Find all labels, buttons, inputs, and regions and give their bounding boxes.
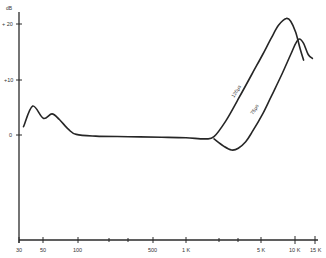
- curve-75us: [214, 39, 312, 150]
- x-tick-label: 10 K: [289, 247, 301, 253]
- frequency-response-chart: dB + 20 +10 0 30 50 100 500 1 K 5 K 10 K…: [0, 0, 326, 258]
- curve-label-75us: 75μs: [249, 103, 260, 116]
- x-tick-label: 500: [148, 247, 157, 253]
- x-tick-label: 1 K: [182, 247, 191, 253]
- x-ticks: 30 50 100 500 1 K 5 K 10 K 15 K: [16, 236, 322, 253]
- x-tick-label: 50: [40, 247, 46, 253]
- x-tick-label: 5 K: [257, 247, 266, 253]
- y-tick-label: 0: [9, 132, 12, 138]
- x-tick-label: 30: [16, 247, 22, 253]
- y-tick-label: + 20: [2, 21, 13, 27]
- x-tick-label: 100: [73, 247, 82, 253]
- x-tick-label: 15 K: [310, 247, 322, 253]
- curve-120us: [24, 18, 304, 139]
- y-tick-label: +10: [4, 77, 13, 83]
- y-unit-label: dB: [6, 5, 13, 11]
